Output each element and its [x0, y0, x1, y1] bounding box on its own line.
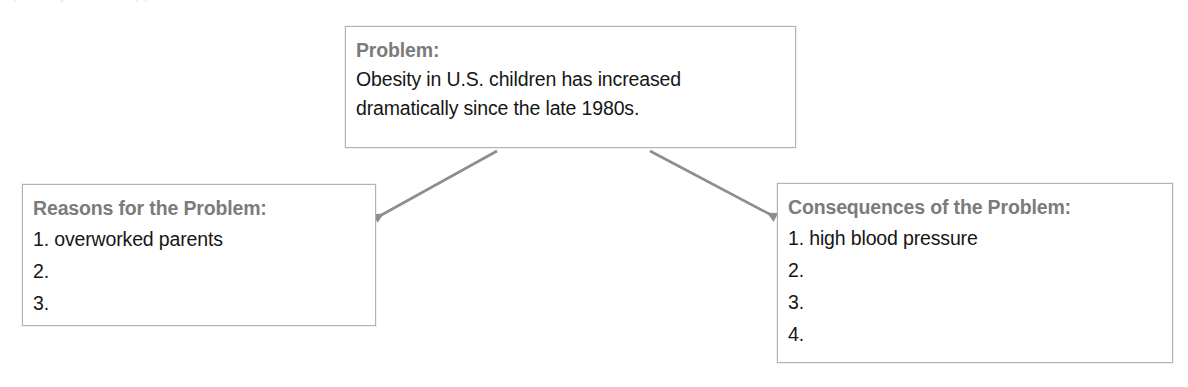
arrow-problem-to-consequences	[650, 151, 775, 217]
consequences-box: Consequences of the Problem: 1. high blo…	[777, 183, 1173, 363]
problem-line-2: dramatically since the late 1980s.	[356, 94, 795, 123]
reasons-item-1: 1. overworked parents	[33, 223, 375, 255]
clipped-text-artifact: a partially visible clipped line of text	[0, 0, 1188, 10]
consequences-item-1: 1. high blood pressure	[788, 222, 1172, 254]
problem-box: Problem: Obesity in U.S. children has in…	[345, 26, 796, 148]
diagram-canvas: a partially visible clipped line of text…	[0, 0, 1188, 387]
reasons-heading: Reasons for the Problem:	[33, 194, 375, 223]
reasons-item-3: 3.	[33, 287, 375, 319]
consequences-item-4: 4.	[788, 318, 1172, 350]
consequences-item-2: 2.	[788, 254, 1172, 286]
problem-line-1: Obesity in U.S. children has increased	[356, 65, 795, 94]
consequences-item-3: 3.	[788, 286, 1172, 318]
arrow-problem-to-reasons	[376, 151, 497, 218]
reasons-item-2: 2.	[33, 255, 375, 287]
reasons-box: Reasons for the Problem: 1. overworked p…	[22, 184, 376, 326]
problem-heading: Problem:	[356, 36, 795, 65]
consequences-heading: Consequences of the Problem:	[788, 193, 1172, 222]
